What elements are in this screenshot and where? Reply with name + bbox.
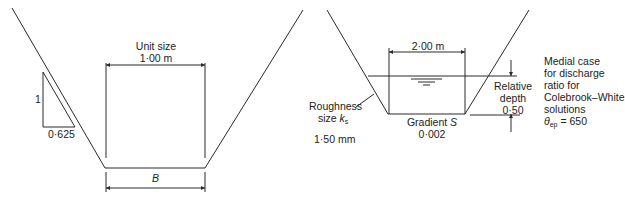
slope-vertical-label: 1 bbox=[35, 93, 41, 106]
gradient-value: 0·002 bbox=[400, 128, 464, 141]
roughness-value: 1·50 mm bbox=[314, 133, 355, 146]
unit-size-value: 1·00 m bbox=[120, 52, 192, 65]
top-width-label: 2·00 m bbox=[400, 40, 456, 53]
slope-horizontal-label: 0·625 bbox=[48, 128, 75, 141]
relative-depth-value: 0·50 bbox=[490, 104, 536, 117]
left-channel-section bbox=[12, 8, 303, 168]
roughness-size-label: size ks bbox=[318, 112, 348, 128]
slope-triangle bbox=[43, 72, 75, 127]
theta-ep-value: θep = 650 bbox=[544, 115, 587, 131]
bed-width-label: B bbox=[152, 172, 159, 185]
